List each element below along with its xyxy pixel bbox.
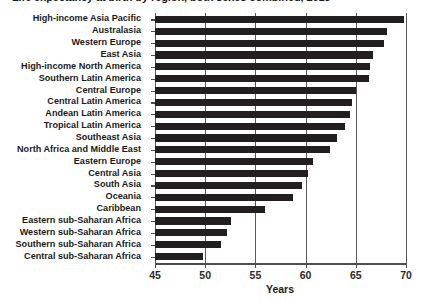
category-label: Central sub-Saharan Africa [24,252,141,261]
bar [155,241,221,248]
bar [155,99,352,106]
bar [155,63,370,70]
category-label: Western sub-Saharan Africa [20,228,141,237]
bar [155,75,369,82]
bar [155,28,387,35]
category-label: South Asia [94,180,141,189]
x-axis-tick [205,263,206,268]
x-axis-tick-label: 50 [199,269,211,281]
category-label: Western Europe [71,38,141,47]
bar [155,146,330,153]
category-label: Australasia [92,26,141,35]
category-label: Caribbean [97,204,141,213]
category-label: Southern sub-Saharan Africa [16,240,141,249]
chart-title-clipped: Life expectancy at birth by region, both… [0,0,425,8]
category-label: East Asia [100,50,141,59]
category-label: Southeast Asia [76,133,141,142]
category-label: Tropical Latin America [44,121,141,130]
category-label: Central Europe [76,86,141,95]
bar [155,51,373,58]
x-axis-tick [306,263,307,268]
x-axis-line [155,263,407,265]
category-label: Southern Latin America [39,74,141,83]
category-label: High-income North America [21,62,141,71]
bar [155,170,308,177]
x-axis-tick [406,263,407,268]
bar [155,134,337,141]
x-axis-tick-label: 45 [149,269,161,281]
bar [155,16,404,23]
category-label: Central Asia [88,169,141,178]
bar [155,217,231,224]
bar [155,123,345,130]
category-label: Eastern Europe [74,157,141,166]
category-label: North Africa and Middle East [17,145,141,154]
bar [155,111,350,118]
bar [155,229,227,236]
bar [155,40,384,47]
x-axis-tick-label: 55 [250,269,262,281]
category-label: Oceania [106,192,141,201]
chart-title: Life expectancy at birth by region, both… [12,0,331,3]
bar [155,158,313,165]
bar-chart: Life expectancy at birth by region, both… [0,0,425,301]
bar [155,182,302,189]
x-axis-tick-label: 60 [300,269,312,281]
bar [155,194,293,201]
x-axis-tick [155,263,156,268]
bar [155,87,356,94]
x-axis-tick [356,263,357,268]
x-axis-tick-label: 70 [400,269,412,281]
category-label: Eastern sub-Saharan Africa [22,216,141,225]
category-label: Central Latin America [47,97,141,106]
x-axis-tick [255,263,256,268]
bar [155,253,203,260]
bar [155,206,265,213]
x-axis-title: Years [266,283,294,295]
category-label: High-income Asia Pacific [33,14,141,23]
gridline [406,13,407,263]
x-axis-tick-label: 65 [350,269,362,281]
category-label: Andean Latin America [45,109,141,118]
